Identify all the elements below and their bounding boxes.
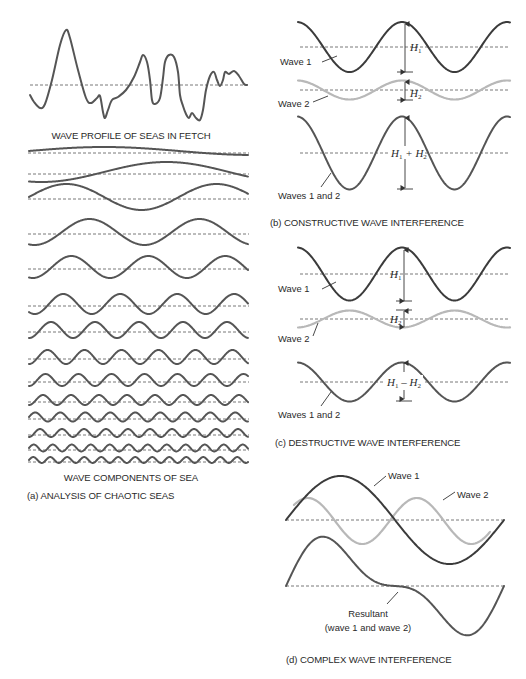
component-wave-5 xyxy=(29,256,248,278)
component-wave-10 xyxy=(29,395,248,405)
b-h1-label: H1 xyxy=(409,41,422,55)
c-h1-label: H1 xyxy=(389,268,402,282)
c-h2-label: H2 xyxy=(389,313,402,327)
component-wave-12 xyxy=(29,429,248,437)
components-caption: WAVE COMPONENTS OF SEA xyxy=(64,472,199,483)
b-wave1-label: Wave 1 xyxy=(280,56,311,67)
d-resultant-leader xyxy=(387,592,398,604)
wave-interference-figure: WAVE PROFILE OF SEAS IN FETCH WAVE COMPO… xyxy=(0,0,526,679)
panel-d-caption: (d) COMPLEX WAVE INTERFERENCE xyxy=(286,654,452,665)
panel-c-destructive: H1 Wave 1 H2 Wave 2 H1 – H2 Waves 1 and … xyxy=(275,248,510,449)
d-resultant-sublabel: (wave 1 and wave 2) xyxy=(325,622,412,633)
component-wave-2 xyxy=(29,162,248,182)
component-wave-13 xyxy=(29,445,248,452)
panel-c-caption: (c) DESTRUCTIVE WAVE INTERFERENCE xyxy=(275,437,460,448)
component-wave-11 xyxy=(29,413,248,422)
b-wave2-label: Wave 2 xyxy=(278,98,309,109)
panel-b-constructive: H1 Wave 1 H2 Wave 2 H1 + H2 Waves 1 and … xyxy=(270,22,510,228)
component-wave-1 xyxy=(29,147,248,155)
c-result-leader xyxy=(321,392,331,406)
d-wave1-leader xyxy=(374,476,386,486)
d-resultant-label: Resultant xyxy=(348,608,388,619)
component-wave-3 xyxy=(29,184,248,210)
panel-b-caption: (b) CONSTRUCTIVE WAVE INTERFERENCE xyxy=(270,217,464,228)
c-diff-label: H1 – H2 xyxy=(386,376,421,390)
component-wave-7 xyxy=(29,322,248,338)
component-wave-8 xyxy=(29,350,248,364)
chaotic-wave-profile xyxy=(30,30,247,121)
b-wave2-leader xyxy=(313,96,328,102)
profile-caption: WAVE PROFILE OF SEAS IN FETCH xyxy=(51,130,210,141)
c-wave1-label: Wave 1 xyxy=(278,283,309,294)
b-result-label: Waves 1 and 2 xyxy=(278,190,340,201)
wave-components xyxy=(28,147,249,463)
b-result-leader xyxy=(321,173,331,187)
b-h2-label: H2 xyxy=(409,87,422,101)
d-wave2-leader xyxy=(443,492,455,500)
b-sum-label: H1 + H2 xyxy=(390,147,427,161)
panel-a-caption: (a) ANALYSIS OF CHAOTIC SEAS xyxy=(27,490,174,501)
c-result-label: Waves 1 and 2 xyxy=(278,409,340,420)
d-wave2-label: Wave 2 xyxy=(457,489,488,500)
component-wave-4 xyxy=(29,219,248,245)
panel-a-chaotic-seas: WAVE PROFILE OF SEAS IN FETCH WAVE COMPO… xyxy=(27,30,249,501)
d-wave1-label: Wave 1 xyxy=(388,470,419,481)
component-wave-6 xyxy=(29,294,248,314)
c-wave2-leader xyxy=(313,323,318,336)
b-wave-2 xyxy=(298,81,510,100)
panel-d-complex: Wave 1 Wave 2 Resultant (wave 1 and wave… xyxy=(286,470,505,665)
c-wave2-label: Wave 2 xyxy=(278,333,309,344)
b-wave-1 xyxy=(298,22,510,72)
component-wave-9 xyxy=(29,374,248,386)
